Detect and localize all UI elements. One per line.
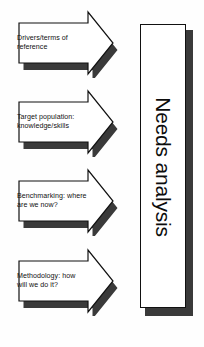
process-arrow-methodology[interactable]: Methodology: how will we do it? — [10, 246, 118, 316]
box-outline: Needs analysis — [140, 24, 186, 308]
arrow-label: Drivers/terms of reference — [17, 34, 87, 52]
process-arrow-target-population[interactable]: Target population: knowledge/skills — [10, 87, 118, 157]
process-arrow-benchmarking[interactable]: Benchmarking: where are we now? — [10, 166, 118, 236]
needs-analysis-label: Needs analysis — [141, 25, 187, 309]
arrow-label: Benchmarking: where are we now? — [17, 192, 87, 210]
arrow-label: Methodology: how will we do it? — [17, 272, 87, 290]
needs-analysis-box[interactable]: Needs analysis — [140, 24, 194, 314]
arrow-label: Target population: knowledge/skills — [17, 113, 87, 131]
diagram-canvas: Drivers/terms of reference Target popula… — [0, 0, 204, 347]
process-arrow-drivers-terms-of-reference[interactable]: Drivers/terms of reference — [10, 8, 118, 78]
